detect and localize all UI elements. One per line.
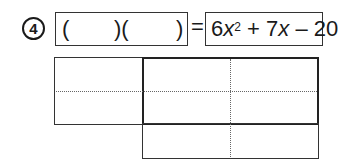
coefficient-a: 6 [211, 16, 223, 42]
problem-number: 4 [29, 21, 37, 36]
minus-operator: – [289, 16, 313, 42]
factored-answer-box[interactable]: ( )( ) [55, 12, 188, 46]
variable-x-b: x [278, 16, 289, 42]
horizontal-dotted-divider [56, 91, 317, 92]
quadratic-expression-box: 6x2 + 7x – 20 [205, 12, 323, 46]
equals-sign: = [191, 14, 204, 40]
plus-operator: + [241, 16, 266, 42]
coefficient-b: 7 [266, 16, 278, 42]
vertical-dotted-divider [230, 59, 231, 157]
problem-number-badge: 4 [22, 17, 45, 40]
variable-x-a: x [223, 16, 234, 42]
exponent: 2 [234, 20, 241, 34]
close-paren-2: ) [176, 16, 183, 42]
constant-term: 20 [314, 16, 338, 42]
open-paren-1: ( [62, 16, 69, 42]
close-open-paren: )( [114, 16, 129, 42]
